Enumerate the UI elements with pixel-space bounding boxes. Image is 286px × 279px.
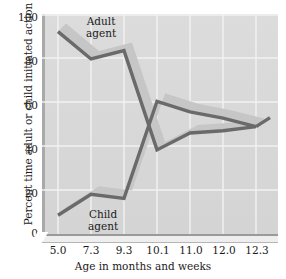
chart-figure: Percent time adult or child initiated ac… [0,0,286,279]
annotation-child-line2: agent [88,221,118,233]
annotation-child-agent: Child agent [88,209,118,232]
y-tick-20: 20 [12,187,38,199]
annotation-adult-agent: Adult agent [86,16,116,39]
y-tick-80: 80 [12,55,38,67]
plot-area [42,14,278,234]
annotation-adult-line2: agent [86,28,116,40]
y-tick-40: 40 [12,143,38,155]
x-axis-label: Age in months and weeks [0,260,286,272]
y-tick-60: 60 [12,99,38,111]
annotation-adult-line1: Adult [86,16,116,28]
x-tick-12-3: 12.3 [237,244,277,256]
axis-base-face [36,236,278,243]
x-axis-ticks: 5.0 7.3 9.3 10.1 11.0 12.0 12.3 [0,244,286,260]
y-tick-100: 100 [12,11,38,23]
annotation-child-line1: Child [88,209,118,221]
